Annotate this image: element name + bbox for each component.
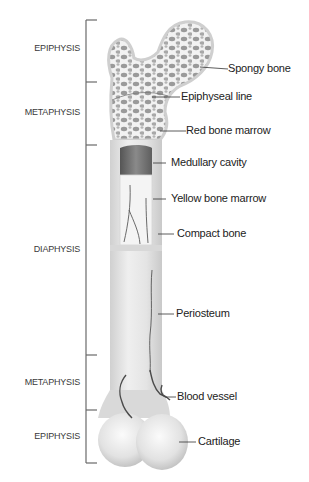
region-bracket xyxy=(86,20,97,463)
label-blood-vessel: Blood vessel xyxy=(177,390,237,402)
label-medullary-cavity: Medullary cavity xyxy=(171,156,247,168)
distal-epiphysis xyxy=(98,390,188,470)
label-cartilage: Cartilage xyxy=(198,435,240,447)
medullary-cavity xyxy=(120,145,152,175)
long-bone-diagram: EPIPHYSIS METAPHYSIS DIAPHYSIS METAPHYSI… xyxy=(0,0,309,482)
cut-edge xyxy=(110,245,162,251)
region-label-metaphysis-distal: METAPHYSIS xyxy=(0,377,80,387)
region-label-diaphysis: DIAPHYSIS xyxy=(0,244,80,254)
label-red-bone-marrow: Red bone marrow xyxy=(186,124,270,136)
proximal-epiphysis xyxy=(109,22,213,140)
label-periosteum: Periosteum xyxy=(176,307,230,319)
label-compact-bone: Compact bone xyxy=(177,227,246,239)
label-epiphyseal-line: Epiphyseal line xyxy=(181,90,252,102)
region-label-metaphysis-proximal: METAPHYSIS xyxy=(0,107,80,117)
region-label-epiphysis-proximal: EPIPHYSIS xyxy=(0,43,80,53)
label-yellow-bone-marrow: Yellow bone marrow xyxy=(171,192,266,204)
label-spongy-bone: Spongy bone xyxy=(228,62,291,74)
region-label-epiphysis-distal: EPIPHYSIS xyxy=(0,431,80,441)
